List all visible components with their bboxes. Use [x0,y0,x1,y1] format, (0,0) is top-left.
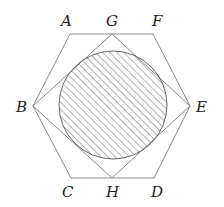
label-b: B [15,98,27,116]
geometry-diagram: A G F B E C H D [0,0,224,207]
label-h: H [105,183,120,201]
label-d: D [150,183,163,201]
label-g: G [106,12,118,30]
label-e: E [195,98,207,116]
label-a: A [59,12,72,30]
label-c: C [62,183,74,201]
label-f: F [151,12,163,30]
hatched-circle [59,51,167,159]
